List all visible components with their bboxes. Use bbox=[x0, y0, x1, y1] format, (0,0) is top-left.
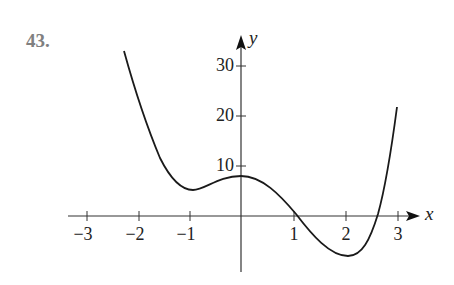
y-axis-label: y bbox=[249, 27, 257, 49]
x-axis-label: x bbox=[425, 203, 433, 225]
x-tick-label: −2 bbox=[125, 224, 144, 245]
y-tick-label: 10 bbox=[194, 155, 234, 176]
x-tick-label: 3 bbox=[394, 224, 403, 245]
function-curve bbox=[124, 51, 397, 256]
x-tick-label: 2 bbox=[342, 224, 351, 245]
y-tick-label: 20 bbox=[194, 105, 234, 126]
x-tick-label: 1 bbox=[290, 224, 299, 245]
x-tick-label: −1 bbox=[176, 224, 195, 245]
x-tick-label: −3 bbox=[73, 224, 92, 245]
y-tick-label: 30 bbox=[194, 55, 234, 76]
plot-area bbox=[0, 0, 454, 285]
